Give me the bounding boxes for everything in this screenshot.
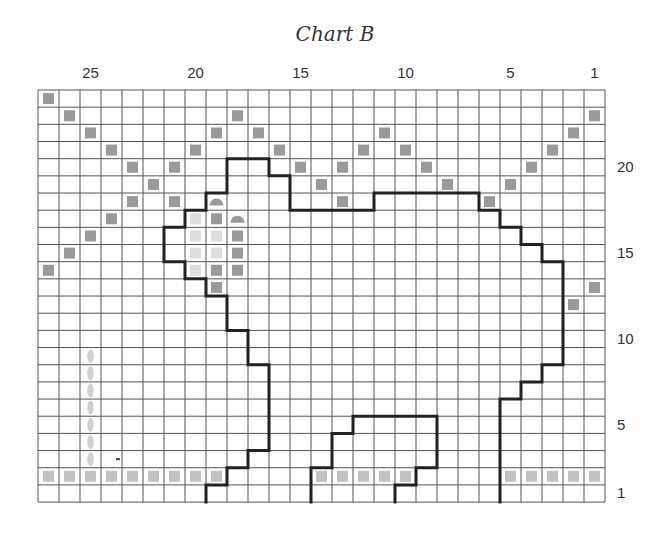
column-number-labels: 2520151051 (82, 64, 599, 81)
dark-square-symbol (337, 196, 348, 207)
dark-square-symbol (253, 127, 264, 138)
dark-square-symbol (442, 179, 453, 190)
dark-square-symbol (232, 265, 243, 276)
dark-square-symbol (64, 110, 75, 121)
light-square-symbol (505, 471, 516, 482)
light-square-symbol (190, 471, 201, 482)
light-square-symbol (316, 471, 327, 482)
dark-square-symbol (568, 127, 579, 138)
pale-square-symbol (211, 230, 222, 241)
light-square-symbol (589, 471, 600, 482)
dark-square-symbol (484, 196, 495, 207)
row-number-labels: 20151051 (617, 158, 634, 501)
column-label: 10 (397, 64, 414, 81)
row-label: 20 (617, 158, 634, 175)
pale-square-symbol (190, 248, 201, 259)
oval-symbol (87, 366, 93, 380)
dark-square-symbol (526, 162, 537, 173)
dark-square-symbol (169, 196, 180, 207)
dark-square-symbol (43, 265, 54, 276)
dark-square-symbol (421, 162, 432, 173)
dark-square-symbol (211, 127, 222, 138)
light-square-symbol (547, 471, 558, 482)
dark-square-symbol (232, 248, 243, 259)
dark-square-symbol (232, 230, 243, 241)
light-square-symbol (337, 471, 348, 482)
pale-square-symbol (190, 230, 201, 241)
light-square-symbol (106, 471, 117, 482)
column-label: 5 (506, 64, 514, 81)
dark-square-symbol (589, 282, 600, 293)
dark-square-symbol (211, 282, 222, 293)
dark-square-symbol (337, 162, 348, 173)
dark-square-symbol (169, 162, 180, 173)
dark-square-symbol (589, 110, 600, 121)
dark-square-symbol (106, 145, 117, 156)
dark-square-symbol (358, 145, 369, 156)
oval-symbol (87, 401, 93, 415)
dark-square-symbol (568, 299, 579, 310)
half-circle-icon (210, 199, 224, 206)
pale-square-symbol (211, 248, 222, 259)
dark-square-symbol (148, 179, 159, 190)
light-square-symbol (358, 471, 369, 482)
dark-square-symbol (274, 145, 285, 156)
grid-lines (38, 90, 605, 502)
oval-symbol (87, 383, 93, 397)
dark-square-symbol (211, 265, 222, 276)
dark-square-symbol (127, 162, 138, 173)
light-square-symbol (85, 471, 96, 482)
column-label: 20 (187, 64, 204, 81)
half-circle-icon (231, 216, 245, 223)
light-square-symbol (526, 471, 537, 482)
dark-square-symbol (127, 196, 138, 207)
oval-symbol (87, 349, 93, 363)
light-square-symbol (379, 471, 390, 482)
dark-square-symbol (190, 145, 201, 156)
dark-square-symbol (211, 213, 222, 224)
dark-square-symbol (295, 162, 306, 173)
knitting-chart-grid: 2520151051 20151051 (0, 0, 670, 534)
dark-square-symbol (400, 145, 411, 156)
column-label: 25 (82, 64, 99, 81)
dark-square-symbol (232, 110, 243, 121)
light-square-symbol (568, 471, 579, 482)
column-label: 15 (292, 64, 309, 81)
light-square-symbol (43, 471, 54, 482)
row-label: 5 (617, 416, 625, 433)
dark-square-symbol (106, 213, 117, 224)
oval-symbol (87, 435, 93, 449)
dark-square-symbol (43, 93, 54, 104)
dark-square-symbol (316, 179, 327, 190)
light-square-symbol (400, 471, 411, 482)
dark-square-symbol (379, 127, 390, 138)
dark-square-symbol (85, 127, 96, 138)
row-label: 10 (617, 330, 634, 347)
oval-symbol (87, 452, 93, 466)
dark-square-symbol (64, 248, 75, 259)
pale-square-symbol (190, 213, 201, 224)
dark-square-symbol (85, 230, 96, 241)
column-label: 1 (590, 64, 598, 81)
dark-square-symbol (505, 179, 516, 190)
light-square-symbol (64, 471, 75, 482)
light-square-symbol (148, 471, 159, 482)
row-label: 1 (617, 484, 625, 501)
light-square-symbol (169, 471, 180, 482)
oval-symbol (87, 418, 93, 432)
row-label: 15 (617, 244, 634, 261)
light-square-symbol (127, 471, 138, 482)
light-square-symbol (211, 471, 222, 482)
dash-mark (116, 458, 120, 460)
pale-square-symbol (190, 265, 201, 276)
chart-symbols (43, 93, 600, 482)
dark-square-symbol (547, 145, 558, 156)
